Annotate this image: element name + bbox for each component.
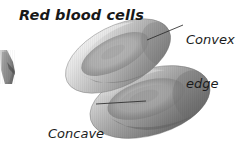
convex-edge-label-line2: edge [186, 77, 235, 92]
convex-edge-label: Convex edge [186, 4, 235, 120]
red-blood-cells-figure: Red blood cells Convex edge Concave midd… [0, 0, 237, 143]
concave-middle-label: Concave middle [48, 98, 104, 143]
concave-middle-label-line1: Concave [48, 127, 104, 142]
capillary-fragment [0, 50, 15, 84]
figure-title: Red blood cells [19, 7, 144, 23]
convex-edge-label-line1: Convex [186, 33, 235, 48]
